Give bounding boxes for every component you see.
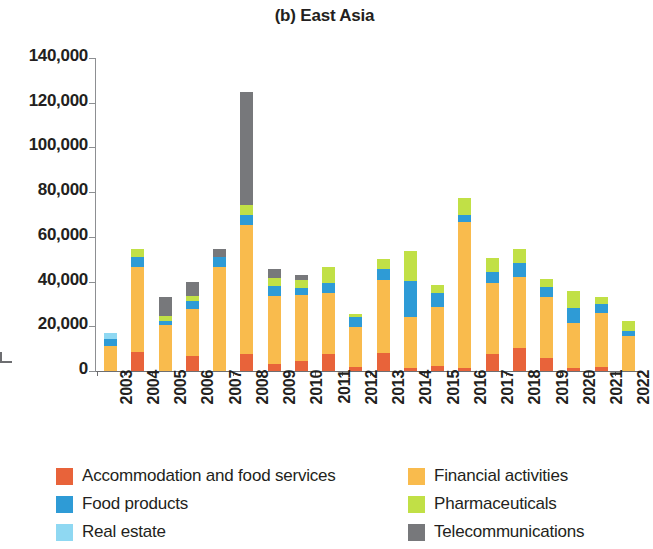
bar-stack[interactable]	[458, 198, 471, 371]
legend-item[interactable]: Pharmaceuticals	[408, 494, 557, 514]
bar-segment[interactable]	[240, 215, 253, 225]
bar-segment[interactable]	[567, 291, 580, 308]
bar-stack[interactable]	[295, 275, 308, 371]
bar-stack[interactable]	[431, 285, 444, 371]
bar-segment[interactable]	[458, 222, 471, 368]
bar-segment[interactable]	[131, 267, 144, 352]
bar-segment[interactable]	[404, 251, 417, 281]
bar-segment[interactable]	[213, 249, 226, 257]
bar-stack[interactable]	[349, 314, 362, 371]
bar-stack[interactable]	[213, 249, 226, 371]
bar-segment[interactable]	[513, 249, 526, 264]
bar-stack[interactable]	[567, 291, 580, 371]
bar-segment[interactable]	[377, 259, 390, 269]
bar-segment[interactable]	[268, 286, 281, 296]
bar-segment[interactable]	[349, 317, 362, 327]
bar-segment[interactable]	[186, 282, 199, 296]
bar-segment[interactable]	[104, 339, 117, 346]
legend-item[interactable]: Accommodation and food services	[56, 466, 336, 486]
bar-segment[interactable]	[513, 263, 526, 276]
bar-segment[interactable]	[458, 215, 471, 222]
bar-segment[interactable]	[295, 275, 308, 280]
bar-segment[interactable]	[213, 267, 226, 371]
bar-segment[interactable]	[159, 321, 172, 325]
bar-segment[interactable]	[322, 293, 335, 354]
bar-segment[interactable]	[349, 327, 362, 367]
legend-item[interactable]: Financial activities	[408, 466, 568, 486]
bar-segment[interactable]	[268, 278, 281, 286]
legend-item[interactable]: Real estate	[56, 522, 166, 542]
bar-segment[interactable]	[295, 288, 308, 295]
bar-segment[interactable]	[186, 296, 199, 301]
bar-segment[interactable]	[458, 198, 471, 215]
bar-segment[interactable]	[486, 258, 499, 271]
bar-stack[interactable]	[622, 321, 635, 371]
bar-segment[interactable]	[513, 348, 526, 371]
bar-segment[interactable]	[159, 297, 172, 316]
bar-segment[interactable]	[104, 333, 117, 339]
legend-item[interactable]: Telecommunications	[408, 522, 584, 542]
bar-segment[interactable]	[622, 321, 635, 331]
bar-stack[interactable]	[322, 267, 335, 371]
bar-stack[interactable]	[240, 92, 253, 371]
bar-segment[interactable]	[404, 317, 417, 368]
bar-segment[interactable]	[186, 356, 199, 371]
bar-segment[interactable]	[131, 352, 144, 371]
bar-segment[interactable]	[377, 269, 390, 280]
bar-segment[interactable]	[431, 307, 444, 366]
bar-segment[interactable]	[131, 249, 144, 257]
bar-segment[interactable]	[240, 225, 253, 354]
bar-segment[interactable]	[268, 296, 281, 364]
bar-segment[interactable]	[622, 331, 635, 337]
bar-segment[interactable]	[431, 293, 444, 306]
bar-segment[interactable]	[595, 313, 608, 367]
legend-label: Accommodation and food services	[82, 466, 336, 486]
bar-segment[interactable]	[486, 272, 499, 283]
bar-segment[interactable]	[104, 346, 117, 371]
bar-segment[interactable]	[431, 285, 444, 293]
bar-segment[interactable]	[295, 280, 308, 288]
bar-segment[interactable]	[567, 308, 580, 323]
bar-segment[interactable]	[540, 279, 553, 287]
bar-segment[interactable]	[404, 281, 417, 317]
bar-stack[interactable]	[540, 279, 553, 371]
bar-stack[interactable]	[159, 297, 172, 371]
bar-stack[interactable]	[186, 282, 199, 371]
bar-segment[interactable]	[322, 283, 335, 293]
bar-segment[interactable]	[186, 301, 199, 309]
bar-segment[interactable]	[240, 92, 253, 206]
bar-segment[interactable]	[540, 297, 553, 357]
bar-stack[interactable]	[595, 297, 608, 371]
bar-segment[interactable]	[240, 354, 253, 371]
bar-stack[interactable]	[104, 333, 117, 371]
bar-segment[interactable]	[186, 309, 199, 356]
bar-stack[interactable]	[131, 249, 144, 371]
bar-segment[interactable]	[131, 257, 144, 267]
bar-stack[interactable]	[486, 258, 499, 371]
bar-segment[interactable]	[268, 269, 281, 278]
bar-segment[interactable]	[240, 205, 253, 215]
bar-segment[interactable]	[295, 295, 308, 361]
bar-segment[interactable]	[159, 316, 172, 321]
legend-item[interactable]: Food products	[56, 494, 188, 514]
bar-segment[interactable]	[567, 323, 580, 369]
bar-stack[interactable]	[404, 251, 417, 371]
bar-segment[interactable]	[322, 354, 335, 371]
bar-segment[interactable]	[595, 304, 608, 313]
bar-segment[interactable]	[540, 287, 553, 297]
bar-segment[interactable]	[540, 358, 553, 371]
bar-stack[interactable]	[513, 249, 526, 371]
bar-segment[interactable]	[486, 283, 499, 355]
bar-segment[interactable]	[213, 257, 226, 267]
bar-segment[interactable]	[513, 277, 526, 349]
bar-segment[interactable]	[595, 297, 608, 304]
bar-segment[interactable]	[349, 314, 362, 317]
bar-stack[interactable]	[377, 259, 390, 371]
bar-segment[interactable]	[486, 354, 499, 371]
bar-segment[interactable]	[377, 280, 390, 353]
bar-segment[interactable]	[622, 336, 635, 371]
bar-segment[interactable]	[322, 267, 335, 283]
bar-segment[interactable]	[159, 325, 172, 371]
bar-segment[interactable]	[377, 353, 390, 371]
bar-stack[interactable]	[268, 269, 281, 371]
